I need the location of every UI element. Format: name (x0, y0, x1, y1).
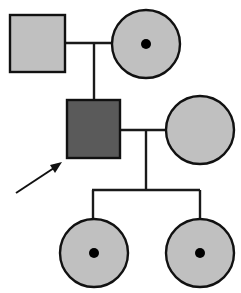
pedigree-chart (0, 0, 241, 293)
individual-I-1-male-square (10, 15, 65, 72)
proband-arrow-icon (16, 162, 62, 193)
individual-II-2-female-circle (166, 96, 234, 164)
carrier-dot-icon (141, 39, 151, 49)
carrier-dot-icon (195, 248, 205, 258)
individual-II-1-affected-male-square (67, 100, 120, 158)
carrier-dot-icon (89, 248, 99, 258)
